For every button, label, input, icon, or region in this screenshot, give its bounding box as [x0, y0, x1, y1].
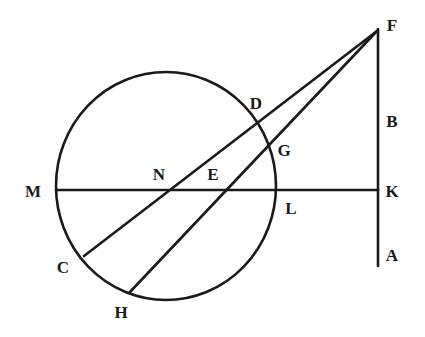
point-label-A: A	[386, 247, 398, 264]
point-label-B: B	[386, 113, 397, 130]
main-circle	[56, 72, 276, 300]
point-label-N: N	[153, 166, 165, 183]
point-label-G: G	[277, 142, 290, 159]
point-label-K: K	[385, 183, 398, 200]
point-label-C: C	[57, 259, 69, 276]
point-label-L: L	[285, 200, 296, 217]
geometry-figure: F D B G N E M K L A C H	[0, 0, 425, 337]
point-label-M: M	[25, 183, 41, 200]
point-label-F: F	[387, 17, 397, 34]
point-label-H: H	[114, 304, 127, 321]
point-label-D: D	[250, 95, 262, 112]
point-label-E: E	[207, 166, 218, 183]
line-cf-secant	[84, 31, 377, 256]
